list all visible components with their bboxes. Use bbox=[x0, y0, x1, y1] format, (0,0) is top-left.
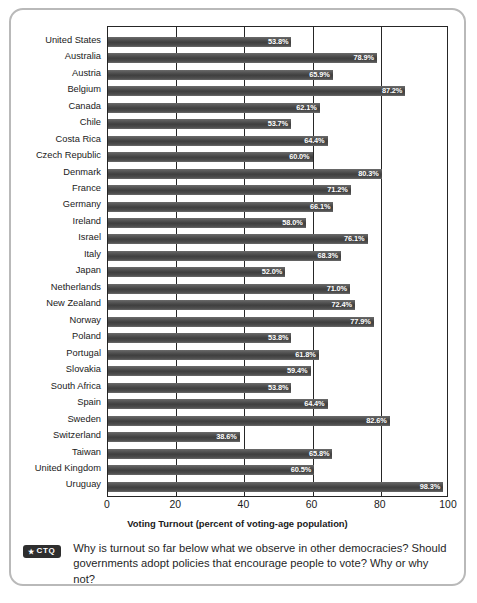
category-label: Czech Republic bbox=[36, 151, 101, 160]
bar: 62.1% bbox=[108, 103, 320, 113]
bar-value-label: 68.3% bbox=[317, 252, 337, 259]
bar: 53.8% bbox=[108, 37, 291, 47]
figure-frame: United StatesAustraliaAustriaBelgiumCana… bbox=[9, 8, 466, 586]
x-tick-label: 40 bbox=[238, 500, 250, 510]
bar-value-label: 53.8% bbox=[268, 384, 288, 391]
bar-row: 61.8% bbox=[108, 346, 447, 362]
bar-value-label: 71.2% bbox=[327, 186, 347, 193]
bar: 87.2% bbox=[108, 86, 405, 96]
category-label: United Kingdom bbox=[35, 464, 101, 473]
bar-row: 68.3% bbox=[108, 247, 447, 263]
bar-value-label: 64.4% bbox=[304, 137, 324, 144]
ctq-question-text: Why is turnout so far below what we obse… bbox=[73, 541, 450, 587]
x-axis-title: Voting Turnout (percent of voting-age po… bbox=[11, 518, 464, 529]
category-label: Norway bbox=[69, 316, 101, 325]
bar-value-label: 53.8% bbox=[268, 38, 288, 45]
category-label: Poland bbox=[72, 332, 101, 341]
bar-row: 87.2% bbox=[108, 83, 447, 99]
bar: 52.0% bbox=[108, 267, 285, 277]
bar-row: 76.1% bbox=[108, 231, 447, 247]
category-label: Costa Rica bbox=[56, 135, 101, 144]
category-label: New Zealand bbox=[46, 299, 101, 308]
bar: 60.5% bbox=[108, 465, 314, 475]
bar: 71.0% bbox=[108, 284, 350, 294]
bar-value-label: 59.4% bbox=[287, 368, 307, 375]
category-label: Japan bbox=[76, 266, 101, 275]
bar-value-label: 80.3% bbox=[358, 170, 378, 177]
bar-row: 60.5% bbox=[108, 461, 447, 477]
bar-value-label: 87.2% bbox=[382, 88, 402, 95]
category-label: Switzerland bbox=[53, 431, 101, 440]
bar-row: 53.8% bbox=[108, 330, 447, 346]
bar-value-label: 78.9% bbox=[354, 55, 374, 62]
bar-value-label: 53.8% bbox=[268, 335, 288, 342]
bar: 98.3% bbox=[108, 482, 443, 492]
bar-value-label: 52.0% bbox=[262, 269, 282, 276]
bar-row: 58.0% bbox=[108, 214, 447, 230]
ctq-badge-label: CTQ bbox=[37, 547, 56, 555]
bar-row: 82.6% bbox=[108, 412, 447, 428]
category-label: South Africa bbox=[51, 382, 101, 391]
bar: 65.9% bbox=[108, 70, 333, 80]
category-label: France bbox=[72, 184, 101, 193]
bar: 38.6% bbox=[108, 432, 240, 442]
bar-row: 98.3% bbox=[108, 478, 447, 494]
category-label: Slovakia bbox=[66, 365, 101, 374]
bar-row: 72.4% bbox=[108, 297, 447, 313]
bar-row: 77.9% bbox=[108, 313, 447, 329]
category-label: Italy bbox=[84, 250, 101, 259]
bar-value-label: 61.8% bbox=[295, 351, 315, 358]
category-label: Austria bbox=[72, 69, 101, 78]
bar-row: 71.2% bbox=[108, 181, 447, 197]
bar: 82.6% bbox=[108, 416, 390, 426]
category-label: Uruguay bbox=[66, 480, 101, 489]
category-label: Australia bbox=[65, 52, 101, 61]
bar-value-label: 60.0% bbox=[289, 153, 309, 160]
category-label: Ireland bbox=[73, 217, 101, 226]
category-label: Chile bbox=[80, 118, 101, 127]
bar-value-label: 53.7% bbox=[268, 120, 288, 127]
bar-value-label: 65.8% bbox=[309, 450, 329, 457]
bar: 60.0% bbox=[108, 152, 313, 162]
category-axis-labels: United StatesAustraliaAustriaBelgiumCana… bbox=[15, 26, 101, 497]
bar-row: 59.4% bbox=[108, 363, 447, 379]
x-tick-label: 0 bbox=[104, 500, 110, 510]
bar-row: 53.7% bbox=[108, 116, 447, 132]
ctq-badge: ★ CTQ bbox=[23, 545, 61, 558]
bar: 66.1% bbox=[108, 202, 333, 212]
x-tick-label: 60 bbox=[306, 500, 318, 510]
category-label: Belgium bbox=[67, 85, 101, 94]
bar: 65.8% bbox=[108, 449, 332, 459]
bar-row: 65.9% bbox=[108, 66, 447, 82]
category-label: Israel bbox=[78, 233, 101, 242]
bar: 58.0% bbox=[108, 218, 306, 228]
bar: 59.4% bbox=[108, 366, 311, 376]
bar: 71.2% bbox=[108, 185, 351, 195]
bar-value-label: 98.3% bbox=[420, 483, 440, 490]
star-icon: ★ bbox=[28, 548, 35, 555]
bar-row: 52.0% bbox=[108, 264, 447, 280]
bar-value-label: 72.4% bbox=[331, 302, 351, 309]
x-tick-label: 100 bbox=[439, 500, 456, 510]
category-label: Germany bbox=[63, 200, 101, 209]
bar-row: 64.4% bbox=[108, 132, 447, 148]
bar-row: 62.1% bbox=[108, 99, 447, 115]
bar-value-label: 60.5% bbox=[291, 466, 311, 473]
bar-value-label: 64.4% bbox=[304, 400, 324, 407]
bar-row: 65.8% bbox=[108, 445, 447, 461]
bar-value-label: 58.0% bbox=[282, 219, 302, 226]
bar-series: 53.8%78.9%65.9%87.2%62.1%53.7%64.4%60.0%… bbox=[108, 27, 447, 496]
bar: 53.8% bbox=[108, 333, 291, 343]
ctq-callout: ★ CTQ Why is turnout so far below what w… bbox=[23, 541, 450, 587]
bar-row: 78.9% bbox=[108, 50, 447, 66]
bar-row: 71.0% bbox=[108, 280, 447, 296]
bar: 77.9% bbox=[108, 317, 374, 327]
category-label: Canada bbox=[68, 102, 101, 111]
bar: 64.4% bbox=[108, 136, 328, 146]
bar: 53.8% bbox=[108, 383, 291, 393]
bar-row: 64.4% bbox=[108, 396, 447, 412]
bar-row: 66.1% bbox=[108, 198, 447, 214]
bar: 68.3% bbox=[108, 251, 341, 261]
bar: 72.4% bbox=[108, 300, 355, 310]
x-tick-label: 20 bbox=[169, 500, 181, 510]
